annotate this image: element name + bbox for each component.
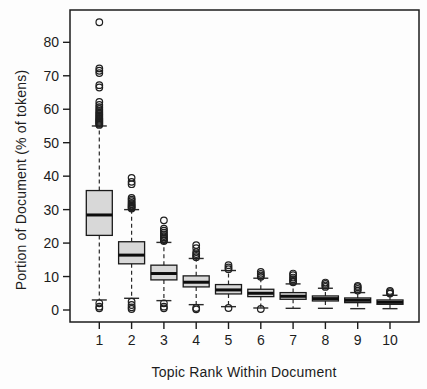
y-tick-label: 0 [51,302,59,318]
y-tick-label: 20 [43,235,59,251]
y-tick-label: 50 [43,135,59,151]
x-tick-label: 3 [160,332,168,348]
x-tick-label: 10 [382,332,398,348]
x-axis-title: Topic Rank Within Document [152,364,337,380]
y-tick-label: 60 [43,101,59,117]
box-rank-1 [86,191,112,236]
plot-frame [70,10,419,322]
y-tick-label: 80 [43,34,59,50]
y-tick-label: 40 [43,168,59,184]
x-tick-label: 9 [354,332,362,348]
y-axis-title: Portion of Document (% of tokens) [13,70,29,291]
outlier-point [128,175,135,182]
box-rank-2 [119,242,145,264]
x-tick-label: 1 [95,332,103,348]
boxplot-figure: 0102030405060708012345678910 Topic Rank … [0,0,427,389]
outlier-point [96,19,103,26]
chart-canvas: 0102030405060708012345678910 [0,0,427,389]
y-tick-label: 70 [43,68,59,84]
x-tick-label: 6 [257,332,265,348]
y-tick-label: 30 [43,202,59,218]
outlier-point [225,305,232,312]
x-tick-label: 7 [289,332,297,348]
x-tick-label: 8 [322,332,330,348]
x-tick-label: 5 [225,332,233,348]
y-tick-label: 10 [43,269,59,285]
x-tick-label: 4 [192,332,200,348]
x-tick-label: 2 [128,332,136,348]
outlier-point [161,217,168,224]
